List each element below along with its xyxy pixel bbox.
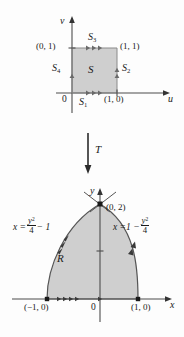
transformation-figure: v u 0 (0, 1) (1, 1) (1, 0) S S1 S2 S3 S4…	[0, 0, 184, 337]
transform-label-T: T	[95, 144, 101, 155]
bottom-axis-label-x: x	[170, 300, 174, 310]
point-label-apex: (0, 2)	[106, 203, 126, 212]
equation-right-curve: x =1 −y24	[113, 216, 150, 235]
edge-label-S3-sub: 3	[93, 36, 96, 43]
transform-arrow-head	[85, 165, 92, 174]
bottom-origin-label: 0	[91, 303, 96, 313]
equation-right-denominator: 4	[141, 226, 150, 235]
transform-arrow-group	[85, 133, 92, 174]
edge-label-S2-sub: 2	[127, 67, 130, 74]
equation-left-denominator: 4	[27, 226, 36, 235]
equation-left-curve: x =y24− 1	[13, 216, 50, 235]
point-apex-dot	[98, 202, 103, 207]
top-corner-label-0-1: (0, 1)	[36, 42, 56, 51]
point-label-right: (1, 0)	[131, 303, 151, 312]
point-right-dot	[136, 297, 140, 301]
top-corner-label-1-0: (1, 0)	[104, 95, 124, 104]
equation-left-eq: =	[20, 222, 26, 232]
bottom-axis-label-y: y	[90, 186, 94, 196]
equation-right-fraction: y24	[141, 216, 150, 235]
figure-canvas	[0, 0, 184, 337]
equation-left-fraction: y24	[27, 216, 36, 235]
point-left-dot	[45, 297, 49, 301]
equation-left-tail: − 1	[37, 222, 51, 232]
edge-label-S2: S2	[122, 63, 130, 74]
top-axis-label-v: v	[60, 16, 64, 26]
region-label-S: S	[88, 64, 94, 75]
edge-label-S3: S3	[88, 32, 96, 43]
edge-label-S1-sub: 1	[84, 101, 87, 108]
edge-label-S1: S1	[79, 97, 87, 108]
point-label-left: (−1, 0)	[24, 303, 49, 312]
unit-square-S	[72, 48, 117, 93]
top-origin-label: 0	[62, 95, 67, 105]
v-axis-arrowhead	[69, 16, 75, 23]
region-label-R: R	[57, 253, 64, 264]
equation-right-num-exp: 2	[145, 216, 148, 222]
top-axis-label-u: u	[168, 94, 173, 104]
top-corner-label-1-1: (1, 1)	[120, 42, 140, 51]
edge-label-S4-sub: 4	[57, 67, 60, 74]
y-axis-arrowhead	[97, 188, 103, 195]
equation-right-lead: 1 −	[126, 222, 140, 232]
equation-left-num-exp: 2	[32, 216, 35, 222]
edge-label-S4: S4	[52, 63, 60, 74]
